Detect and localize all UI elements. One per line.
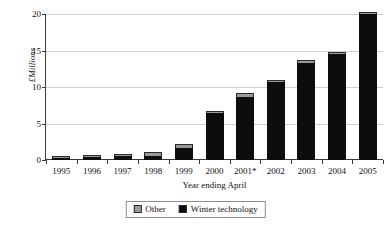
x-tick-mark: [230, 160, 231, 164]
bar-segment-winter-technology: [236, 97, 254, 161]
x-tick-label: 2004: [328, 166, 346, 176]
x-tick-label: 2001*: [234, 166, 257, 176]
stacked-bar-chart: £Millions 05101520 199519961997199819992…: [0, 0, 391, 229]
legend-label-other: Other: [145, 204, 166, 214]
y-tick-label: 5: [37, 119, 42, 129]
x-tick-mark: [383, 160, 384, 164]
x-tick-mark: [138, 160, 139, 164]
x-tick-mark: [291, 160, 292, 164]
x-tick-mark: [352, 160, 353, 164]
bars-layer: [46, 14, 383, 160]
x-tick-label: 1996: [83, 166, 101, 176]
bar-group: [328, 52, 346, 160]
bar-segment-winter-technology: [267, 82, 285, 160]
bar-group: [359, 12, 377, 160]
bar-group: [206, 111, 224, 160]
x-tick-mark: [322, 160, 323, 164]
x-tick-mark: [199, 160, 200, 164]
y-tick-label: 0: [37, 155, 42, 165]
x-axis-tick-labels: 1995199619971998199920002001*20022003200…: [46, 166, 383, 179]
y-tick-label: 10: [32, 82, 41, 92]
bar-segment-winter-technology: [206, 113, 224, 160]
x-tick-label: 1997: [114, 166, 132, 176]
bar-segment-winter-technology: [175, 148, 193, 160]
bar-group: [144, 152, 162, 160]
bar-group: [267, 80, 285, 160]
x-tick-mark: [77, 160, 78, 164]
bar-segment-winter-technology: [359, 14, 377, 160]
x-tick-label: 1998: [144, 166, 162, 176]
legend-entry-winter-technology: Winter technology: [179, 204, 258, 214]
legend-entry-other: Other: [133, 204, 166, 214]
x-tick-label: 2002: [267, 166, 285, 176]
plot-area: 05101520: [46, 14, 383, 160]
x-tick-mark: [46, 160, 47, 164]
x-tick-label: 2005: [359, 166, 377, 176]
legend-label-winter-technology: Winter technology: [191, 204, 258, 214]
x-tick-mark: [260, 160, 261, 164]
bar-group: [236, 93, 254, 160]
x-tick-label: 1999: [175, 166, 193, 176]
x-tick-mark: [107, 160, 108, 164]
legend-swatch-winter-technology-icon: [179, 205, 187, 213]
y-tick-label: 20: [32, 9, 41, 19]
bar-segment-winter-technology: [297, 63, 315, 160]
x-axis-title: Year ending April: [46, 180, 383, 190]
x-tick-label: 1995: [52, 166, 70, 176]
x-tick-mark: [169, 160, 170, 164]
legend: Other Winter technology: [125, 201, 265, 218]
bar-group: [175, 144, 193, 160]
x-tick-label: 2003: [297, 166, 315, 176]
bar-segment-winter-technology: [328, 54, 346, 160]
bar-group: [297, 60, 315, 160]
legend-swatch-other-icon: [133, 205, 141, 213]
y-tick-label: 15: [32, 46, 41, 56]
x-tick-label: 2000: [206, 166, 224, 176]
